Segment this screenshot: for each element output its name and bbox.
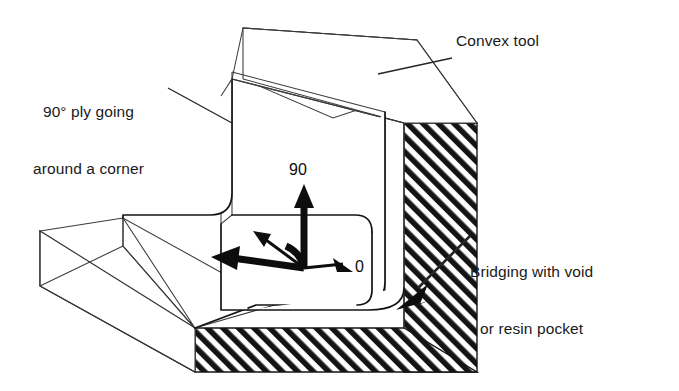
label-ply-going-around-corner: 90° ply going around a corner: [33, 64, 144, 216]
label-ply-line-1: 90° ply going: [33, 102, 144, 121]
label-convex-tool: Convex tool: [456, 31, 539, 50]
label-bridging-line-2: or resin pocket: [470, 319, 593, 338]
wall-outer-top-face: [232, 28, 477, 123]
axis-90-arrowhead: [294, 184, 314, 208]
label-bridging-line-1: Bridging with void: [470, 262, 593, 281]
axis-upleft-arrowhead: [253, 231, 271, 247]
label-bridging-void: Bridging with void or resin pocket: [470, 224, 593, 376]
axis-label-0: 0: [355, 258, 364, 276]
axis-label-90: 90: [289, 161, 307, 179]
label-ply-line-2: around a corner: [33, 159, 144, 178]
figure-root: 90° ply going around a corner Convex too…: [0, 0, 679, 391]
